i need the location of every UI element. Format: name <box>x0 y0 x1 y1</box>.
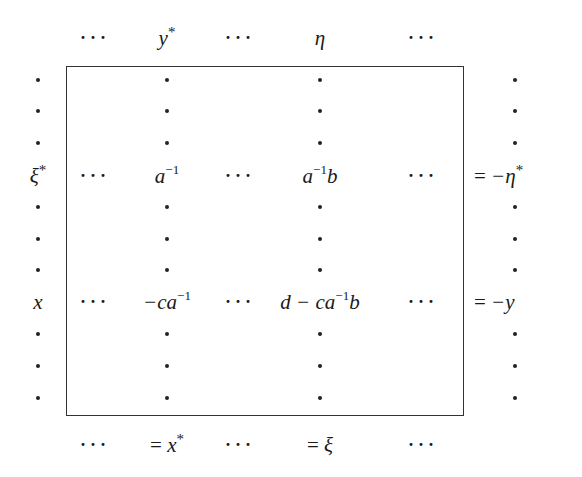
row-result-neg-eta-star-equals: = <box>474 164 486 188</box>
row-x-ellipsis-3: ··· <box>408 293 438 311</box>
row-result-neg-y-base: −y <box>491 290 515 314</box>
vertical-dot <box>513 78 517 82</box>
vertical-dot <box>513 109 517 113</box>
vertical-dot <box>36 237 40 241</box>
vertical-dot <box>318 396 322 400</box>
top-ellipsis-3: ··· <box>408 29 438 47</box>
vertical-dot <box>165 268 169 272</box>
entry-schur-complement-base: d − ca <box>280 290 335 314</box>
vertical-dot <box>36 141 40 145</box>
vertical-dot <box>36 332 40 336</box>
vertical-dot <box>318 237 322 241</box>
row-xi-star-ellipsis-1: ··· <box>80 167 110 185</box>
row-result-neg-eta-star-base: −η <box>491 164 516 188</box>
top-label-y-star: y* <box>159 28 176 49</box>
vertical-dot <box>36 364 40 368</box>
vertical-dot <box>36 78 40 82</box>
entry-neg-c-a-inverse: −ca−1 <box>143 292 191 313</box>
row-label-x: x <box>33 292 42 313</box>
bottom-label-eq-x-star-sup: * <box>176 431 184 447</box>
vertical-dot <box>165 332 169 336</box>
entry-a-inverse-base: a <box>155 164 166 188</box>
vertical-dot <box>318 78 322 82</box>
vertical-dot <box>513 364 517 368</box>
vertical-dot <box>165 141 169 145</box>
top-ellipsis-2: ··· <box>225 29 255 47</box>
bottom-ellipsis-2: ··· <box>225 436 255 454</box>
entry-a-inverse-b: a−1b <box>303 166 338 187</box>
entry-schur-complement-exponent: −1 <box>335 288 349 303</box>
vertical-dot <box>513 332 517 336</box>
vertical-dot <box>318 364 322 368</box>
vertical-dot <box>36 268 40 272</box>
bottom-ellipsis-3: ··· <box>408 436 438 454</box>
row-result-neg-eta-star: = −η* <box>474 166 523 187</box>
row-xi-star-ellipsis-2: ··· <box>225 167 255 185</box>
vertical-dot <box>165 237 169 241</box>
bottom-label-eq-xi-equals: = <box>307 433 319 457</box>
row-x-ellipsis-1: ··· <box>80 293 110 311</box>
entry-schur-complement: d − ca−1b <box>280 292 359 313</box>
row-label-xi-star: ξ* <box>30 166 47 187</box>
entry-schur-complement-tail: b <box>349 290 360 314</box>
matrix-border <box>66 66 464 416</box>
vertical-dot <box>165 205 169 209</box>
bottom-label-eq-x-star: = x* <box>150 435 184 456</box>
top-label-y-star-base: y <box>159 26 168 50</box>
vertical-dot <box>165 109 169 113</box>
vertical-dot <box>165 364 169 368</box>
vertical-dot <box>165 396 169 400</box>
vertical-dot <box>36 205 40 209</box>
vertical-dot <box>318 332 322 336</box>
entry-a-inverse-exponent: −1 <box>165 162 179 177</box>
bottom-label-eq-xi: = ξ <box>307 435 333 456</box>
top-label-y-star-sup: * <box>168 24 176 40</box>
entry-neg-c-a-inverse-base: −ca <box>143 290 177 314</box>
row-result-neg-eta-star-sup: * <box>516 162 524 178</box>
bottom-label-eq-xi-base: ξ <box>324 433 333 457</box>
entry-a-inverse-b-base: a <box>303 164 314 188</box>
entry-a-inverse-b-exponent: −1 <box>313 162 327 177</box>
vertical-dot <box>318 205 322 209</box>
vertical-dot <box>165 78 169 82</box>
vertical-dot <box>36 396 40 400</box>
vertical-dot <box>513 268 517 272</box>
entry-a-inverse-b-tail: b <box>327 164 338 188</box>
vertical-dot <box>513 396 517 400</box>
entry-neg-c-a-inverse-exponent: −1 <box>177 288 191 303</box>
vertical-dot <box>36 109 40 113</box>
row-label-xi-star-base: ξ <box>30 164 39 188</box>
vertical-dot <box>318 268 322 272</box>
vertical-dot <box>318 141 322 145</box>
vertical-dot <box>513 237 517 241</box>
row-x-ellipsis-2: ··· <box>225 293 255 311</box>
matrix-diagram: ··· y* ··· η ··· ξ* ··· a−1 ··· a−1b ···… <box>0 0 582 477</box>
row-xi-star-ellipsis-3: ··· <box>408 167 438 185</box>
row-result-neg-y-equals: = <box>474 290 486 314</box>
vertical-dot <box>318 109 322 113</box>
vertical-dot <box>513 141 517 145</box>
bottom-ellipsis-1: ··· <box>80 436 110 454</box>
bottom-label-eq-x-star-equals: = <box>150 433 162 457</box>
top-ellipsis-1: ··· <box>80 29 110 47</box>
row-result-neg-y: = −y <box>474 292 515 313</box>
entry-a-inverse: a−1 <box>155 166 179 187</box>
vertical-dot <box>513 205 517 209</box>
top-label-eta: η <box>315 28 325 49</box>
row-label-xi-star-sup: * <box>39 162 47 178</box>
